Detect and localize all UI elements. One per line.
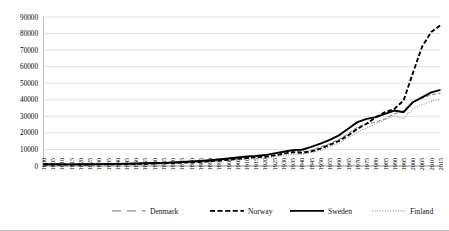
x-axis-tick-label: 1960 [335,158,342,171]
x-axis-tick-label: 2010 [428,158,435,171]
x-axis-tick-label: 1935 [289,158,296,171]
chart-legend: DenmarkNorwaySwedenFinland [112,207,433,216]
x-axis-tick-label: 1925 [271,158,278,171]
x-axis-tick-label: 2000 [409,158,416,171]
chart-figure: 0100002000030000400005000060000700008000… [0,0,449,231]
y-axis-tick-label: 90000 [20,14,38,22]
y-axis-tick-label: 20000 [20,129,38,137]
x-axis-tick-label: 1845 [308,158,315,171]
x-axis-tick-label: 1980 [372,158,379,171]
x-axis-tick-label: 1965 [345,158,352,171]
series-line-finland [44,99,441,165]
y-axis-tick-label: 0 [34,163,38,171]
y-axis-tick-label: 50000 [20,80,38,88]
y-axis-tick-label: 40000 [20,96,38,104]
x-axis-tick-label: 1985 [382,158,389,171]
legend-label-denmark: Denmark [150,207,178,216]
x-axis-tick-label: 1950 [317,158,324,171]
data-series-group [44,25,441,164]
x-axis-tick-label: 1880 [188,158,195,171]
x-axis-tick-label: 1995 [400,158,407,171]
series-line-sweden [44,90,441,165]
x-axis-tick-label: 1975 [363,158,370,171]
series-line-denmark [44,93,441,164]
legend-label-finland: Finland [410,207,433,216]
gridlines-group [44,17,441,166]
x-axis-tick-label: 2005 [418,158,425,171]
series-line-norway [44,25,441,164]
y-axis-labels: 0100002000030000400005000060000700008000… [20,14,38,171]
x-axis-tick-label: 1885 [197,158,204,171]
x-axis-tick-label: 1870 [169,158,176,171]
chart-plot-area: 0100002000030000400005000060000700008000… [0,0,449,231]
x-axis-tick-label: 1955 [326,158,333,171]
line-chart: 0100002000030000400005000060000700008000… [0,0,449,231]
x-axis-tick-label: 1930 [280,158,287,171]
y-axis-tick-label: 10000 [20,146,38,154]
x-axis-tick-label: 1920 [261,158,268,171]
y-axis-tick-label: 80000 [20,30,38,38]
x-axis-tick-label: 1915 [252,158,259,171]
x-axis-tick-label: 1840 [298,158,305,171]
x-axis-tick-label: 1970 [354,158,361,171]
y-axis-tick-label: 70000 [20,47,38,55]
y-axis-tick-label: 60000 [20,63,38,71]
x-axis-tick-label: 1990 [391,158,398,171]
y-axis-tick-label: 30000 [20,113,38,121]
legend-label-norway: Norway [248,207,273,216]
x-axis-tick-label: 1875 [178,158,185,171]
legend-label-sweden: Sweden [328,207,352,216]
x-axis-tick-label: 2015 [437,158,444,171]
axis-lines [44,17,441,167]
